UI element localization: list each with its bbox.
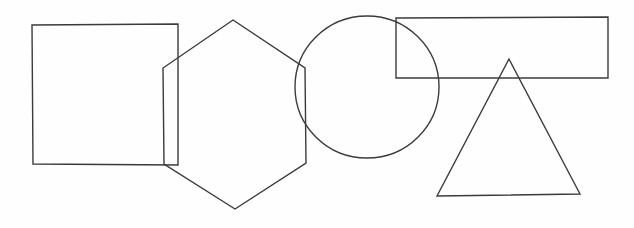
shape-drawing-canvas: Overlapping geometric shape outlines — [0, 0, 634, 228]
shapes-svg — [0, 0, 634, 228]
canvas-background — [0, 0, 634, 228]
